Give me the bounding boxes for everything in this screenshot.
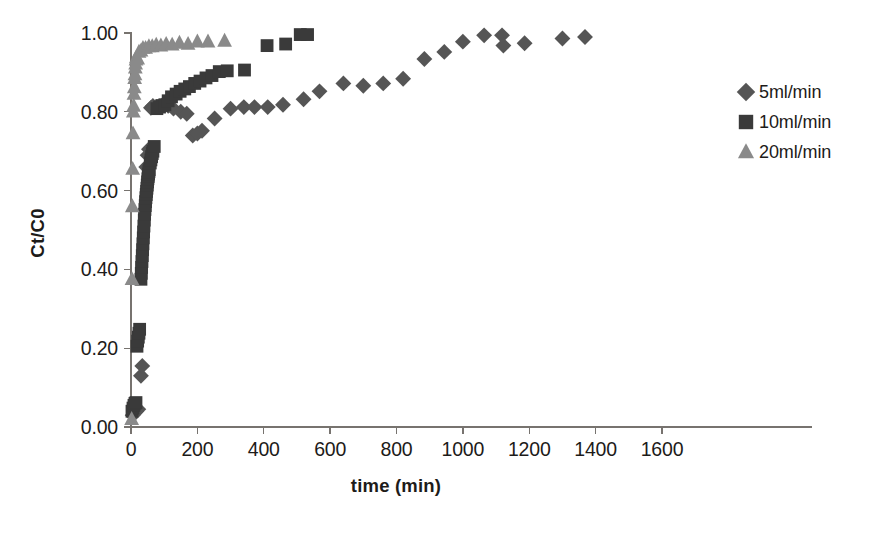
data-point <box>221 64 234 77</box>
x-axis-tick-label: 200 <box>181 438 213 460</box>
data-point <box>261 39 274 52</box>
legend-label: 10ml/min <box>759 112 831 132</box>
y-axis-tick-label: 1.00 <box>81 22 119 44</box>
y-axis-tick-label: 0.80 <box>81 101 119 123</box>
data-point <box>130 396 143 409</box>
x-axis-tick-label: 1200 <box>508 438 551 460</box>
x-axis-tick-label: 800 <box>381 438 413 460</box>
legend-label: 20ml/min <box>759 142 831 162</box>
legend-label: 5ml/min <box>759 82 821 102</box>
x-axis-tick-label: 1000 <box>442 438 485 460</box>
legend-marker-square-icon <box>739 115 753 129</box>
plot-canvas: 0.000.200.400.600.801.00 020040060080010… <box>0 0 874 536</box>
x-axis-tick-label: 0 <box>126 438 137 460</box>
x-axis-tick-label: 1600 <box>641 438 684 460</box>
x-axis-tick-label: 600 <box>314 438 346 460</box>
y-axis-tick-label: 0.20 <box>81 337 119 359</box>
scatter-plot-figure: 0.000.200.400.600.801.00 020040060080010… <box>0 0 874 536</box>
x-axis-title: time (min) <box>351 475 441 496</box>
y-axis-tick-label: 0.60 <box>81 180 119 202</box>
y-axis-title: Ct/C0 <box>27 208 48 257</box>
y-axis-tick-label: 0.40 <box>81 258 119 280</box>
x-axis-tick-label: 400 <box>248 438 280 460</box>
data-point <box>301 28 314 41</box>
data-point <box>133 323 146 336</box>
data-point <box>279 38 292 51</box>
data-point <box>238 64 251 77</box>
x-axis-tick-label: 1400 <box>574 438 617 460</box>
y-axis-tick-label: 0.00 <box>81 416 119 438</box>
data-point <box>148 140 161 153</box>
